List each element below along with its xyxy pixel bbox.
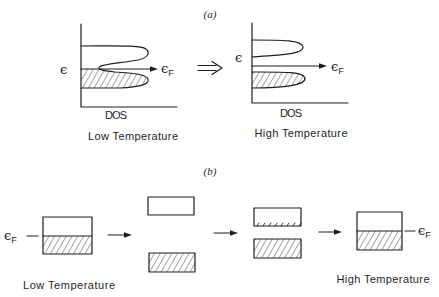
- x-axis-label-dos: DOS: [105, 109, 127, 121]
- occupied-band-hatch: [357, 231, 402, 250]
- panel-b-label: (b): [204, 165, 217, 178]
- occupied-states-hatch: [252, 72, 305, 88]
- arrow-right-icon: [214, 230, 238, 235]
- x-axis-label-dos: DOS: [280, 107, 302, 119]
- fermi-energy-label: ϵF: [418, 223, 431, 240]
- fermi-energy-label: ϵF: [161, 61, 174, 78]
- arrow-right-icon: [108, 232, 132, 237]
- panel-a-label: (a): [204, 8, 217, 21]
- occupied-band-hatch: [254, 239, 301, 258]
- caption-high-temperature: High Temperature: [255, 127, 348, 139]
- band-stage-1: ϵF Low Temperature: [4, 217, 115, 291]
- arrow-right-icon: [319, 229, 342, 234]
- fermi-energy-label: ϵF: [331, 59, 344, 76]
- energy-axis-label: ϵ: [235, 50, 242, 65]
- fermi-arrow-head: [319, 63, 327, 69]
- caption-low-temperature: Low Temperature: [88, 130, 178, 142]
- occupied-band-hatch: [149, 253, 195, 272]
- band-diagram-figure: (a) ϵ ϵF DOS Low Temperature ϵ ϵF DO: [0, 0, 439, 297]
- empty-upper-band: [148, 197, 194, 215]
- dos-plot-low-temperature: ϵ ϵF DOS Low Temperature: [60, 24, 178, 142]
- fermi-energy-label: ϵF: [4, 228, 17, 245]
- band-stage-4: ϵF High Temperature: [337, 212, 432, 285]
- caption-high-temperature: High Temperature: [337, 273, 430, 285]
- upper-band-curve: [252, 40, 303, 57]
- fermi-arrow-head: [150, 66, 158, 72]
- caption-low-temperature: Low Temperature: [23, 279, 115, 291]
- band-stage-2: [148, 197, 195, 272]
- occupied-band-hatch: [43, 236, 92, 254]
- dos-plot-high-temperature: ϵ ϵF DOS High Temperature: [235, 23, 348, 139]
- double-arrow-right-icon: [198, 62, 222, 75]
- energy-axis-label: ϵ: [60, 62, 67, 77]
- partially-filled-upper-band: [254, 208, 301, 226]
- band-stage-3: [254, 208, 301, 258]
